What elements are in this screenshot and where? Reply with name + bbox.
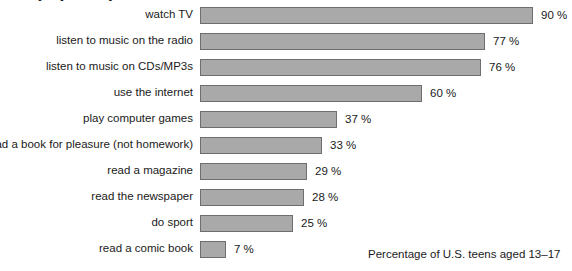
bar [200,137,322,154]
bar [200,85,422,102]
bar-category-label: listen to music on the radio [0,32,193,48]
bar-row: read a magazine29 % [0,161,572,187]
bar [200,59,481,76]
bar-row: listen to music on the radio77 % [0,31,572,57]
bar-track [200,215,293,232]
bar-value-label: 25 % [301,215,327,232]
bar-row: read a book for pleasure (not homework)3… [0,135,572,161]
chart-title-clipped: Everyday activity [10,0,116,3]
bar-track [200,59,481,76]
bar-value-label: 29 % [315,163,341,180]
bar-track [200,111,337,128]
bar-row: read the newspaper28 % [0,187,572,213]
bar-category-label: read a magazine [0,162,193,178]
bar-category-label: use the internet [0,84,193,100]
bar-category-label: do sport [0,214,193,230]
bar-value-label: 33 % [330,137,356,154]
bar-value-label: 90 % [541,7,567,24]
bar-category-label: listen to music on CDs/MP3s [0,58,193,74]
bar [200,33,485,50]
bar-track [200,241,226,258]
chart-caption: Percentage of U.S. teens aged 13–17 [368,247,560,262]
bar-value-label: 7 % [234,241,254,258]
bar-category-label: read a comic book [0,240,193,256]
bar-value-label: 76 % [489,59,515,76]
bar-value-label: 28 % [312,189,338,206]
bar [200,163,307,180]
bar-track [200,7,533,24]
bar-category-label: read the newspaper [0,188,193,204]
bar-track [200,85,422,102]
bar-category-label: play computer games [0,110,193,126]
bar [200,241,226,258]
bar-track [200,137,322,154]
bar-row: use the internet60 % [0,83,572,109]
bar [200,111,337,128]
bar-rows: watch TV90 %listen to music on the radio… [0,5,572,265]
bar-track [200,33,485,50]
bar [200,189,304,206]
bar-row: play computer games37 % [0,109,572,135]
bar-track [200,189,304,206]
bar [200,215,293,232]
bar-value-label: 77 % [493,33,519,50]
bar-track [200,163,307,180]
bar-chart: Everyday activity watch TV90 %listen to … [0,0,572,271]
bar-row: watch TV90 % [0,5,572,31]
bar-category-label: read a book for pleasure (not homework) [0,136,193,152]
bar-category-label: watch TV [0,6,193,22]
bar-row: listen to music on CDs/MP3s76 % [0,57,572,83]
bar-row: do sport25 % [0,213,572,239]
bar-value-label: 37 % [345,111,371,128]
bar [200,7,533,24]
bar-value-label: 60 % [430,85,456,102]
